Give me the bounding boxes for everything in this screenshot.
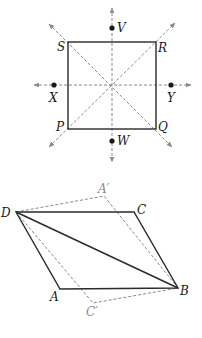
point-w — [109, 138, 114, 143]
label-c: C — [137, 203, 146, 217]
square-figure: S R Q P V W X Y — [34, 8, 191, 162]
point-y — [168, 82, 173, 87]
point-v — [109, 25, 114, 30]
diagram-canvas: S R Q P V W X Y D C B A A′ C′ — [0, 0, 202, 338]
label-c-prime: C′ — [86, 305, 98, 319]
label-a-prime: A′ — [97, 182, 110, 196]
label-p: P — [55, 120, 65, 134]
label-v: V — [117, 21, 127, 35]
label-x: X — [48, 91, 58, 105]
label-r: R — [157, 41, 167, 55]
point-x — [51, 82, 56, 87]
label-s: S — [57, 40, 65, 54]
label-b: B — [179, 284, 189, 298]
label-y: Y — [167, 91, 176, 105]
diagonal-db — [16, 212, 178, 288]
label-a: A — [49, 290, 59, 304]
label-d: D — [0, 206, 11, 220]
label-q: Q — [158, 120, 168, 134]
label-w: W — [117, 134, 131, 148]
parallelogram-figure: D C B A A′ C′ — [0, 182, 189, 319]
